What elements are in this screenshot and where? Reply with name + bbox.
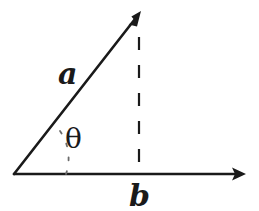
angle-theta-label: θ xyxy=(65,125,82,153)
vector-b-label: b xyxy=(129,181,150,211)
vector-a-arrowhead xyxy=(129,11,141,27)
vector-a-label: a xyxy=(58,59,77,89)
figure-canvas: a θ b xyxy=(0,0,259,211)
